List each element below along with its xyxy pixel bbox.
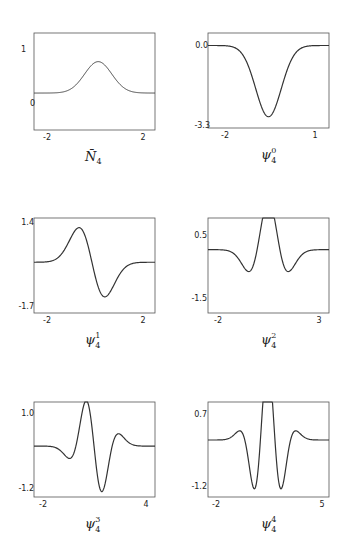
panel-psi-4-3: 1.0 -1.2 -2 4 ψ34 — [18, 402, 155, 534]
panel-psi-4-0: 0.0 -3.3 -2 1 ψ04 — [194, 33, 329, 165]
curve-psi-4-3 — [34, 402, 155, 492]
ytick-bottom: -3.3 — [194, 121, 210, 130]
axes-frame — [34, 218, 155, 313]
ytick-top: 1.0 — [21, 409, 34, 418]
caption-psi-4-2: ψ24 — [261, 331, 276, 350]
axes-frame — [208, 402, 329, 497]
caption-psi-4-0: ψ04 — [261, 146, 276, 165]
ytick-bottom: -1.7 — [18, 302, 34, 311]
ytick-top: 1.4 — [21, 218, 34, 227]
caption-psi-4-3: ψ34 — [85, 515, 100, 534]
ytick-top: 0.7 — [194, 410, 207, 419]
xtick-right: 5 — [319, 500, 324, 509]
ytick-top: 0.5 — [194, 231, 207, 240]
panel-psi-4-2: 0.5 -1.5 -2 3 ψ24 — [191, 218, 329, 350]
xtick-right: 2 — [140, 316, 145, 325]
curve-psi-4-1 — [34, 228, 155, 297]
ytick-top: 0.0 — [195, 41, 208, 50]
xtick-left: -2 — [43, 316, 51, 325]
ytick-bottom: -1.5 — [191, 294, 207, 303]
curve-psi-4-2 — [208, 218, 329, 272]
xtick-left: -2 — [221, 131, 229, 140]
xtick-right: 4 — [143, 500, 148, 509]
caption-n4-bar: N̄4 — [84, 149, 101, 166]
caption-psi-4-4: ψ44 — [261, 515, 276, 534]
ytick-bottom: -1.2 — [191, 482, 207, 491]
ytick-bottom: -1.2 — [18, 484, 34, 493]
axes-frame — [34, 33, 155, 130]
axes-frame — [208, 218, 329, 313]
panel-psi-4-4: 0.7 -1.2 -2 5 ψ44 — [191, 402, 329, 534]
ytick-bottom: 0 — [30, 99, 35, 108]
caption-psi-4-1: ψ14 — [85, 331, 100, 350]
curve-n4-bar — [34, 62, 155, 93]
panel-n4-bar: 1 0 -2 2 N̄4 — [21, 33, 155, 166]
xtick-left: -2 — [212, 500, 220, 509]
xtick-left: -2 — [39, 500, 47, 509]
panel-psi-4-1: 1.4 -1.7 -2 2 ψ14 — [18, 218, 155, 350]
curve-psi-4-0 — [208, 46, 329, 117]
figure-grid: 1 0 -2 2 N̄4 0.0 -3.3 -2 1 ψ04 1.4 -1.7 … — [0, 0, 352, 556]
xtick-right: 3 — [316, 316, 321, 325]
xtick-right: 2 — [140, 133, 145, 142]
xtick-right: 1 — [312, 131, 317, 140]
curve-psi-4-4 — [208, 402, 329, 489]
xtick-left: -2 — [214, 316, 222, 325]
xtick-left: -2 — [43, 133, 51, 142]
ytick-top: 1 — [21, 45, 26, 54]
axes-frame — [208, 33, 329, 128]
